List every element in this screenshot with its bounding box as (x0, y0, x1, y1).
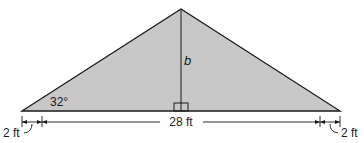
right-overhang-leader (330, 124, 338, 133)
left-overhang-label: 2 ft (3, 126, 20, 140)
angle-label: 32° (50, 95, 68, 109)
left-overhang-leader (24, 124, 32, 133)
right-overhang-label: 2 ft (341, 126, 358, 140)
base-label: 28 ft (169, 115, 193, 129)
triangle-diagram: b 32° 28 ft 2 ft 2 ft (0, 0, 364, 143)
height-label: b (184, 53, 191, 68)
